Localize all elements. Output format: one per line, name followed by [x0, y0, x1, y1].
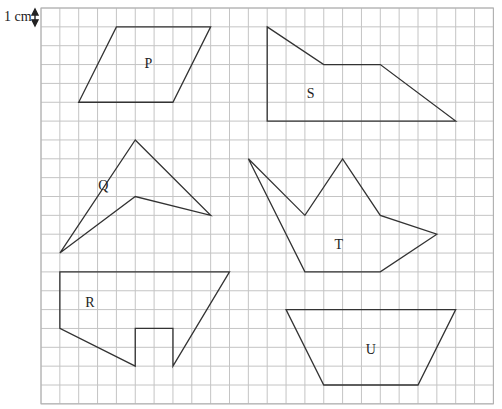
scale-arrow-icon	[32, 9, 38, 26]
shape-outline-r	[60, 272, 230, 366]
shape-label-p: P	[145, 56, 153, 71]
arrow-down-icon	[32, 20, 38, 26]
shape-label-t: T	[335, 237, 344, 252]
arrow-up-icon	[32, 9, 38, 15]
shape-label-s: S	[307, 86, 315, 101]
shape-label-q: Q	[98, 178, 108, 193]
shape-label-u: U	[366, 342, 376, 357]
grid-diagram: PSQTRU	[0, 0, 502, 409]
shapes-layer: PSQTRU	[60, 27, 456, 385]
shape-label-r: R	[85, 295, 95, 310]
shape-r: R	[60, 272, 230, 366]
